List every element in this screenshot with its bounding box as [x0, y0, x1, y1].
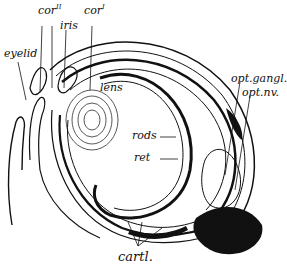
label-cartl: cartl. — [118, 250, 153, 263]
label-cor-I: corI — [84, 4, 105, 16]
cornea-II-fold — [30, 68, 47, 95]
eyelid-inner-fold — [29, 97, 100, 238]
lens — [66, 90, 118, 150]
label-ret: ret — [134, 152, 150, 163]
label-rods: rods — [132, 130, 157, 141]
label-iris: iris — [60, 20, 78, 31]
label-cor-I-sup: I — [102, 3, 105, 11]
label-cor-II-text: cor — [38, 4, 56, 17]
label-lens: lens — [100, 82, 123, 93]
label-cor-II-sup: II — [56, 3, 62, 11]
label-cor-II: corII — [38, 4, 62, 16]
cartilage-mass — [193, 207, 262, 254]
cornea-I-fold — [58, 67, 77, 93]
label-opt-gangl: opt.gangl. — [231, 73, 287, 84]
retina — [94, 74, 191, 218]
eyelid-outer-fold — [9, 117, 25, 225]
label-opt-nv: opt.nv. — [242, 87, 279, 98]
label-eyelid: eyelid — [4, 48, 37, 59]
label-cor-I-text: cor — [84, 4, 102, 17]
